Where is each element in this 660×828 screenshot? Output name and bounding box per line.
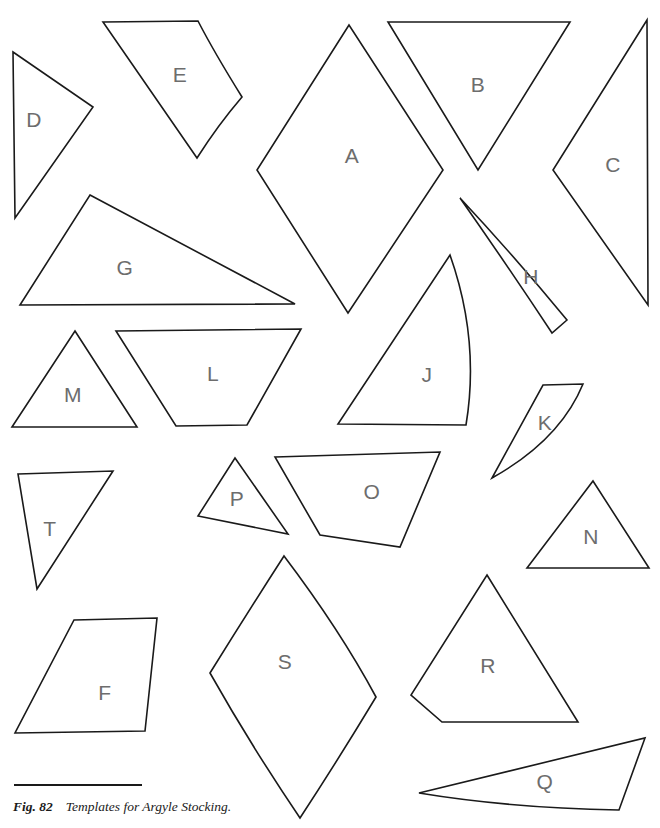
template-label-t: T	[43, 517, 56, 540]
template-label-a: A	[345, 144, 360, 167]
template-label-k: K	[538, 411, 553, 434]
template-shape-d	[13, 52, 93, 218]
template-shape-e	[103, 21, 242, 158]
templates-figure: ABCDEFGHJKLMNOPQRST	[0, 0, 660, 828]
template-label-e: E	[173, 63, 188, 86]
template-label-b: B	[471, 73, 486, 96]
figure-page: ABCDEFGHJKLMNOPQRST Fig. 82Templates for…	[0, 0, 660, 828]
template-shape-r	[411, 575, 578, 722]
caption-description: Templates for Argyle Stocking.	[66, 799, 231, 814]
template-shape-f	[15, 618, 157, 733]
template-shape-g	[20, 195, 295, 305]
template-label-h: H	[523, 265, 539, 288]
template-label-c: C	[605, 153, 621, 176]
template-label-g: G	[117, 256, 134, 279]
template-shape-o	[275, 452, 440, 547]
template-label-j: J	[422, 363, 433, 386]
figure-caption: Fig. 82Templates for Argyle Stocking.	[13, 799, 493, 815]
template-label-r: R	[480, 654, 496, 677]
template-shape-c	[553, 20, 648, 305]
template-label-s: S	[278, 650, 293, 673]
template-label-q: Q	[537, 770, 554, 793]
template-label-n: N	[583, 525, 599, 548]
template-label-p: P	[230, 487, 245, 510]
template-shape-s	[210, 556, 376, 818]
template-label-l: L	[207, 362, 219, 385]
template-label-f: F	[98, 681, 111, 704]
template-shape-t	[18, 471, 113, 589]
template-label-d: D	[26, 108, 42, 131]
template-shape-h	[460, 198, 567, 333]
template-shape-a	[257, 25, 443, 313]
caption-figure-number: Fig. 82	[13, 799, 53, 814]
template-label-o: O	[364, 480, 381, 503]
template-shape-m	[12, 331, 137, 427]
template-label-m: M	[64, 383, 82, 406]
caption-divider	[14, 784, 142, 786]
